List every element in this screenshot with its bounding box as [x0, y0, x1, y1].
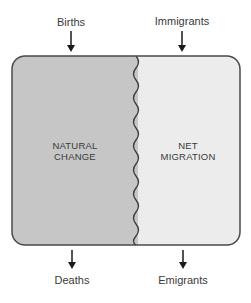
deaths-arrow-icon	[68, 250, 76, 269]
immigrants-arrow-icon	[178, 31, 186, 52]
births-label: Births	[26, 16, 116, 28]
emigrants-arrow-icon	[179, 250, 187, 269]
net-migration-line2: MIGRATION	[143, 151, 233, 162]
natural-change-line2: CHANGE	[30, 151, 120, 162]
natural-change-line1: NATURAL	[30, 140, 120, 151]
births-arrow-icon	[67, 31, 75, 52]
immigrants-label: Immigrants	[137, 15, 227, 27]
net-migration-line1: NET	[143, 140, 233, 151]
deaths-label: Deaths	[27, 274, 117, 286]
natural-change-label: NATURAL CHANGE	[30, 140, 120, 162]
emigrants-label: Emigrants	[138, 274, 228, 286]
net-migration-label: NET MIGRATION	[143, 140, 233, 162]
